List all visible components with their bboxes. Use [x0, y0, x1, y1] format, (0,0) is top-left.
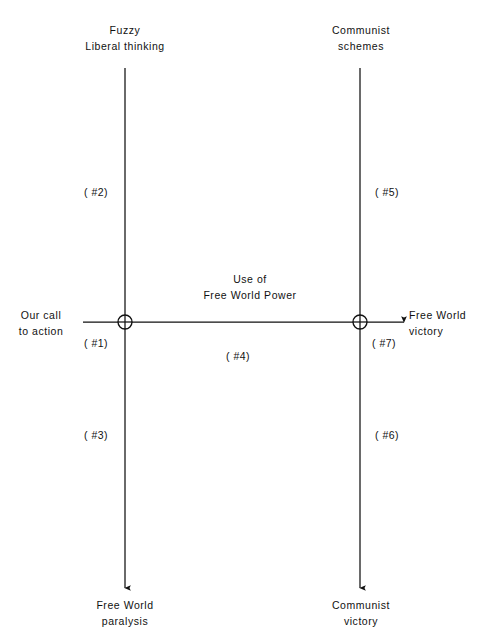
- label-bottom-right-line2: victory: [302, 613, 420, 629]
- label-left-input-line2: to action: [2, 323, 80, 339]
- region-tag-1: ( #1): [84, 337, 108, 349]
- label-left-input: Our call to action: [2, 307, 80, 339]
- region-tag-2: ( #2): [84, 186, 108, 198]
- label-right-output: Free World victory: [409, 307, 481, 339]
- diagram-canvas: Fuzzy Liberal thinking Communist schemes…: [0, 0, 481, 644]
- label-top-left: Fuzzy Liberal thinking: [66, 22, 184, 54]
- region-tag-3: ( #3): [84, 429, 108, 441]
- label-bottom-left: Free World paralysis: [66, 597, 184, 629]
- label-top-left-line1: Fuzzy: [66, 22, 184, 38]
- label-center-axis: Use of Free World Power: [180, 271, 320, 303]
- label-top-right-line1: Communist: [302, 22, 420, 38]
- label-right-output-line2: victory: [409, 323, 481, 339]
- region-tag-6: ( #6): [375, 429, 399, 441]
- label-center-axis-line2: Free World Power: [180, 287, 320, 303]
- label-top-right: Communist schemes: [302, 22, 420, 54]
- region-tag-5: ( #5): [375, 186, 399, 198]
- region-tag-4: ( #4): [226, 350, 250, 362]
- label-bottom-right-line1: Communist: [302, 597, 420, 613]
- label-top-left-line2: Liberal thinking: [66, 38, 184, 54]
- label-bottom-right: Communist victory: [302, 597, 420, 629]
- label-right-output-line1: Free World: [409, 307, 481, 323]
- label-center-axis-line1: Use of: [180, 271, 320, 287]
- label-bottom-left-line1: Free World: [66, 597, 184, 613]
- label-top-right-line2: schemes: [302, 38, 420, 54]
- region-tag-7: ( #7): [372, 337, 396, 349]
- label-bottom-left-line2: paralysis: [66, 613, 184, 629]
- label-left-input-line1: Our call: [2, 307, 80, 323]
